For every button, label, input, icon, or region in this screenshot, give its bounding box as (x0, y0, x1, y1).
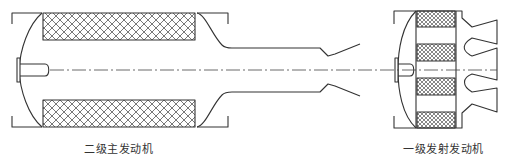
first-stage-motor (394, 11, 497, 128)
second-stage-case-right-bracket-bottom (197, 116, 228, 127)
second-stage-forward-dome (19, 13, 42, 127)
first-stage-grain-1 (417, 11, 455, 27)
first-stage-grain-3 (417, 78, 455, 95)
first-stage-aft-plate-and-nozzles (456, 11, 497, 128)
second-stage-igniter-body (20, 64, 49, 76)
second-stage-grain-bottom (43, 100, 195, 127)
first-stage-case-left-bottom (394, 116, 416, 128)
second-stage-case-left-bracket (12, 13, 42, 24)
first-stage-grain-2 (417, 44, 455, 61)
second-stage-aft-closure-bottom (197, 84, 360, 127)
second-stage-grain-top (43, 13, 195, 40)
first-stage-label: 一级发射发动机 (403, 140, 484, 156)
second-stage-aft-closure-top (197, 13, 360, 56)
first-stage-case-left-top (394, 11, 416, 24)
second-stage-label: 二级主发动机 (84, 140, 153, 156)
first-stage-grain-frame (416, 11, 456, 128)
second-stage-case-left-bracket-bottom (12, 116, 42, 127)
first-stage-grain-4 (417, 112, 455, 128)
second-stage-case-right-bracket (197, 13, 228, 24)
second-stage-igniter-flange (17, 58, 20, 82)
